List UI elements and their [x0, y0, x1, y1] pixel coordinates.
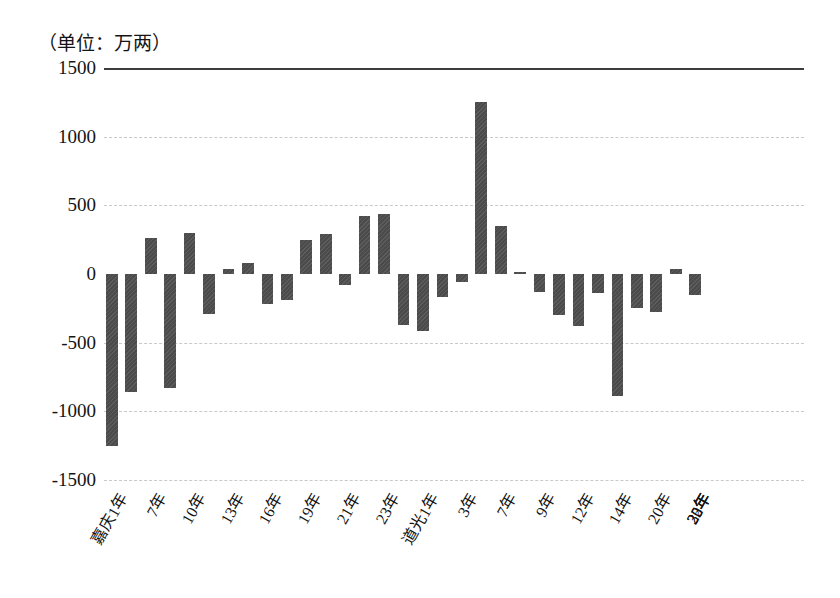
x-axis-tick-labels: 嘉庆1年7年10年13年16年19年21年23年道光1年3年7年9年12年14年… — [104, 480, 804, 590]
gridline — [104, 343, 804, 344]
x-axis-tick-label-text: 3年 — [450, 488, 483, 521]
y-axis-tick-label: -1500 — [52, 469, 96, 491]
bar — [320, 234, 332, 274]
bar — [573, 274, 585, 326]
y-axis-tick-labels: 150010005000-500-1000-1500 — [0, 68, 96, 480]
chart-container: （单位：万两） 150010005000-500-1000-1500 嘉庆1年7… — [0, 0, 840, 598]
bar — [281, 274, 293, 300]
x-axis-tick-label-text: 10年 — [174, 488, 211, 528]
x-axis-tick-label-text: 19年 — [290, 488, 327, 528]
bar — [300, 240, 312, 274]
bar — [592, 274, 604, 293]
x-axis-tick-label-text: 30年 — [679, 488, 716, 528]
bar — [437, 274, 449, 297]
x-axis-tick-label-text: 14年 — [601, 488, 638, 528]
bar — [378, 214, 390, 274]
bar — [203, 274, 215, 314]
x-axis-tick-label-text: 21年 — [329, 488, 366, 528]
bar — [417, 274, 429, 331]
x-axis-tick-label-text: 20年 — [640, 488, 677, 528]
y-axis-tick-label: 0 — [87, 263, 97, 285]
bar — [514, 272, 526, 274]
bar — [689, 274, 701, 295]
y-axis-tick-label: 500 — [68, 194, 97, 216]
bar — [553, 274, 565, 315]
zero-baseline-axis — [104, 68, 804, 70]
bar — [631, 274, 643, 308]
bar — [223, 269, 235, 274]
x-axis-tick-label-text: 9年 — [528, 488, 561, 521]
bar — [612, 274, 624, 396]
x-axis-tick-label-text: 23年 — [368, 488, 405, 528]
bar — [106, 274, 118, 446]
bar — [184, 233, 196, 274]
x-axis-tick-label-text: 7年 — [139, 488, 172, 521]
bar — [125, 274, 137, 392]
chart-unit-title: （单位：万两） — [38, 28, 171, 55]
bar — [164, 274, 176, 388]
bar — [339, 274, 351, 285]
bar — [456, 274, 468, 282]
y-axis-tick-label: -1000 — [52, 400, 96, 422]
x-axis-tick-label-text: 嘉庆1年 — [84, 488, 133, 548]
bar — [242, 263, 254, 274]
y-axis-tick-label: 1000 — [58, 126, 96, 148]
bar — [359, 216, 371, 274]
bar — [262, 274, 274, 304]
x-axis-tick-label-text: 12年 — [563, 488, 600, 528]
bar — [650, 274, 662, 312]
plot-area — [104, 68, 804, 480]
bar — [475, 102, 487, 274]
bar — [398, 274, 410, 325]
bar — [495, 226, 507, 274]
x-axis-tick-label-text: 16年 — [251, 488, 288, 528]
gridline — [104, 411, 804, 412]
bar — [145, 238, 157, 274]
y-axis-tick-label: 1500 — [58, 57, 96, 79]
x-axis-tick-label-text: 13年 — [213, 488, 250, 528]
bar — [670, 269, 682, 274]
x-axis-tick-label-text: 7年 — [489, 488, 522, 521]
bar — [534, 274, 546, 292]
gridline — [104, 137, 804, 138]
y-axis-tick-label: -500 — [61, 332, 96, 354]
gridline — [104, 205, 804, 206]
